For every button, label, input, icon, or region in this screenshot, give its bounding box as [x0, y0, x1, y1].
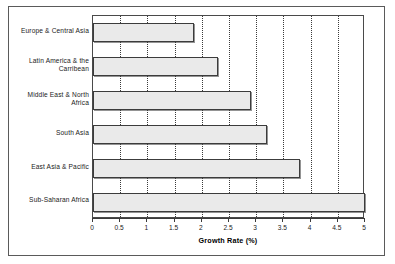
x-tick — [146, 218, 147, 222]
bar-europe-central-asia — [93, 23, 194, 42]
x-tick — [364, 218, 365, 222]
bar-row — [93, 124, 363, 144]
x-tick-label: 0 — [80, 224, 104, 232]
x-tick-label: 3.5 — [270, 224, 294, 232]
x-tick-label: 4.5 — [325, 224, 349, 232]
bar-middle-east-north-africa — [93, 91, 251, 110]
bar-south-asia — [93, 125, 267, 144]
x-tick-label: 2.5 — [216, 224, 240, 232]
x-tick — [255, 218, 256, 222]
x-tick — [228, 218, 229, 222]
bar-sub-saharan-africa — [93, 193, 365, 212]
x-tick-label: 4 — [298, 224, 322, 232]
bar-latin-america-the-carribean — [93, 57, 218, 76]
category-label: Latin America & the Carribean — [15, 57, 89, 74]
bar-row — [93, 57, 363, 77]
x-axis-title: Growth Rate (%) — [92, 236, 364, 245]
category-label: East Asia & Pacific — [15, 163, 89, 171]
bar-east-asia-pacific — [93, 159, 300, 178]
x-tick — [119, 218, 120, 222]
category-label: South Asia — [15, 129, 89, 137]
chart-plot-wrapper: Europe & Central AsiaLatin America & the… — [9, 7, 386, 257]
x-tick — [174, 218, 175, 222]
category-label: Middle East & North Africa — [15, 91, 89, 108]
x-tick — [92, 218, 93, 222]
x-tick-label: 3 — [243, 224, 267, 232]
x-tick-label: 0.5 — [107, 224, 131, 232]
bars-group — [93, 16, 363, 217]
x-tick — [337, 218, 338, 222]
plot-area — [92, 15, 364, 218]
chart-figure-frame: Europe & Central AsiaLatin America & the… — [8, 6, 385, 256]
x-tick — [282, 218, 283, 222]
bar-row — [93, 91, 363, 111]
category-label: Sub-Saharan Africa — [15, 196, 89, 204]
category-label: Europe & Central Asia — [15, 27, 89, 35]
x-tick — [201, 218, 202, 222]
bar-row — [93, 192, 363, 212]
x-tick-label: 5 — [352, 224, 376, 232]
bar-row — [93, 158, 363, 178]
x-tick-label: 1.5 — [162, 224, 186, 232]
x-tick — [310, 218, 311, 222]
x-tick-label: 2 — [189, 224, 213, 232]
x-tick-label: 1 — [134, 224, 158, 232]
bar-row — [93, 23, 363, 43]
